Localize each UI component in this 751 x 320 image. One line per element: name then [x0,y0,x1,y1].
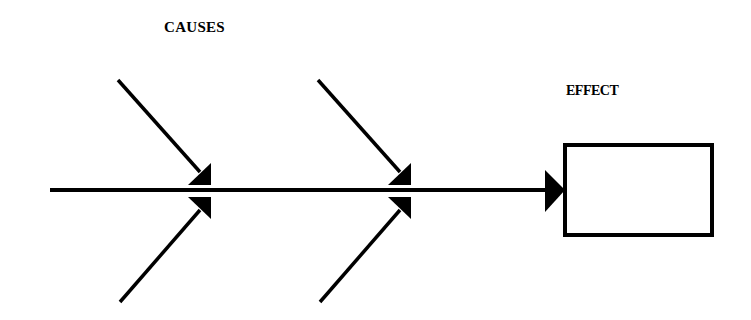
cause-branch-2-bottom [320,210,400,302]
arrowhead-icon [388,197,411,219]
arrowhead-icon [388,163,411,185]
cause-branch-2-top [318,80,400,172]
arrowhead-icon [188,163,211,185]
spine-arrowhead-icon [545,170,565,212]
cause-branch-1-bottom [120,210,200,302]
fishbone-diagram [0,0,751,320]
effect-box [565,145,712,235]
arrowhead-icon [188,197,211,219]
cause-branch-1-top [118,80,200,172]
